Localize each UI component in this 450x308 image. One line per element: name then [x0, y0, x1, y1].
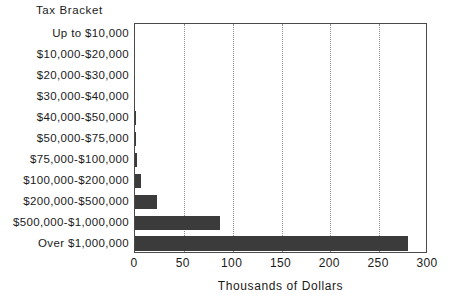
bar [135, 216, 220, 230]
x-axis-title: Thousands of Dollars [134, 279, 427, 293]
bars-layer [135, 24, 426, 252]
x-tick-label: 250 [368, 256, 389, 270]
y-tick-label: $20,000-$30,000 [37, 69, 129, 81]
x-tick-label: 300 [416, 256, 437, 270]
y-tick-label: Up to $10,000 [52, 27, 129, 39]
x-tick-label: 50 [176, 256, 190, 270]
x-axis-tick-labels: 050100150200250300 [134, 256, 427, 274]
bar [135, 195, 157, 209]
y-tick-label: $500,000-$1,000,000 [13, 216, 129, 228]
plot-area [134, 23, 427, 253]
y-tick-label: Over $1,000,000 [38, 237, 129, 249]
y-tick-label: $200,000-$500,000 [23, 195, 129, 207]
x-tick-label: 0 [130, 256, 137, 270]
y-tick-label: $10,000-$20,000 [37, 48, 129, 60]
bar [135, 132, 136, 146]
y-tick-label: $40,000-$50,000 [37, 111, 129, 123]
x-tick-label: 100 [221, 256, 242, 270]
bar-chart-figure: Tax Bracket Up to $10,000$10,000-$20,000… [0, 0, 450, 308]
y-tick-label: $50,000-$75,000 [37, 132, 129, 144]
bar [135, 111, 136, 125]
bar [135, 153, 137, 167]
y-axis-title: Tax Bracket [36, 4, 103, 16]
y-tick-label: $100,000-$200,000 [23, 174, 129, 186]
x-tick-label: 150 [270, 256, 291, 270]
y-axis-tick-labels: Up to $10,000$10,000-$20,000$20,000-$30,… [0, 23, 131, 253]
x-tick-label: 200 [319, 256, 340, 270]
y-tick-label: $75,000-$100,000 [30, 153, 129, 165]
bar [135, 174, 141, 188]
bar [135, 236, 408, 250]
y-tick-label: $30,000-$40,000 [37, 90, 129, 102]
